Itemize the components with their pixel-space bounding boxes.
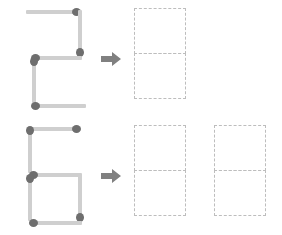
digit-slot-1[interactable]	[134, 8, 186, 100]
match-head	[29, 219, 38, 227]
match-middle-bar[interactable]	[30, 171, 82, 179]
match-head	[26, 126, 34, 135]
digit-slot-2[interactable]	[214, 125, 266, 217]
matchstick-figure-2	[18, 4, 100, 112]
match-head	[72, 125, 81, 133]
match-middle-bar[interactable]	[32, 54, 82, 62]
match-lower-left[interactable]	[30, 58, 38, 104]
match-lower-right[interactable]	[76, 175, 84, 221]
digit-slot-upper-cell	[134, 125, 186, 171]
match-bottom-bar[interactable]	[32, 102, 86, 110]
match-top-bar[interactable]	[26, 8, 80, 16]
match-head	[30, 57, 38, 66]
arrow-right-icon	[100, 50, 122, 68]
match-stick-body	[32, 104, 86, 108]
puzzle-row-bottom	[0, 117, 282, 234]
matchstick-puzzle	[0, 0, 282, 235]
digit-slot-lower-cell	[134, 170, 186, 216]
digit-slot-upper-cell	[134, 8, 186, 54]
puzzle-row-top	[0, 0, 282, 117]
match-lower-left[interactable]	[26, 175, 34, 221]
digit-slot-1[interactable]	[134, 125, 186, 217]
match-top-bar[interactable]	[28, 125, 80, 133]
arrow-right-icon	[100, 167, 122, 185]
match-upper-left[interactable]	[26, 127, 34, 173]
match-head	[31, 102, 40, 110]
match-head	[26, 174, 34, 183]
matchstick-figure-6	[18, 121, 100, 229]
match-bottom-bar[interactable]	[30, 219, 82, 227]
digit-slot-upper-cell	[214, 125, 266, 171]
digit-slot-lower-cell	[214, 170, 266, 216]
digit-slot-lower-cell	[134, 53, 186, 99]
match-upper-right[interactable]	[76, 10, 84, 56]
